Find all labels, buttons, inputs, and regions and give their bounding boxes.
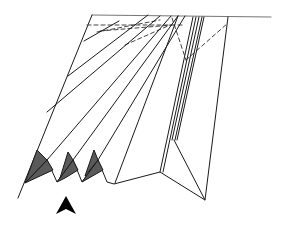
dashed-valley-fold-lines (87, 18, 228, 60)
shaded-flaps (25, 150, 103, 183)
fold-diagram (0, 0, 290, 225)
diagram-canvas: Pleated fold diagram (0, 0, 290, 225)
push-arrow-icon (56, 196, 76, 214)
top-edge (92, 15, 271, 17)
